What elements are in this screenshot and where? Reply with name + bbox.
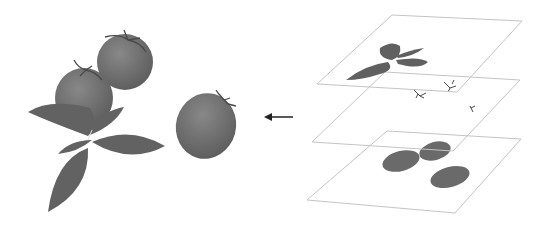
top-layer xyxy=(317,15,522,92)
layer-stack xyxy=(307,15,522,213)
figure-canvas xyxy=(0,0,549,231)
tomato-stems xyxy=(414,80,475,112)
left-arrow-icon xyxy=(264,113,293,121)
middle-layer xyxy=(312,72,520,151)
tomato-right xyxy=(168,86,243,165)
composite-scene xyxy=(28,30,244,212)
basil-leaves-layer xyxy=(346,43,428,80)
